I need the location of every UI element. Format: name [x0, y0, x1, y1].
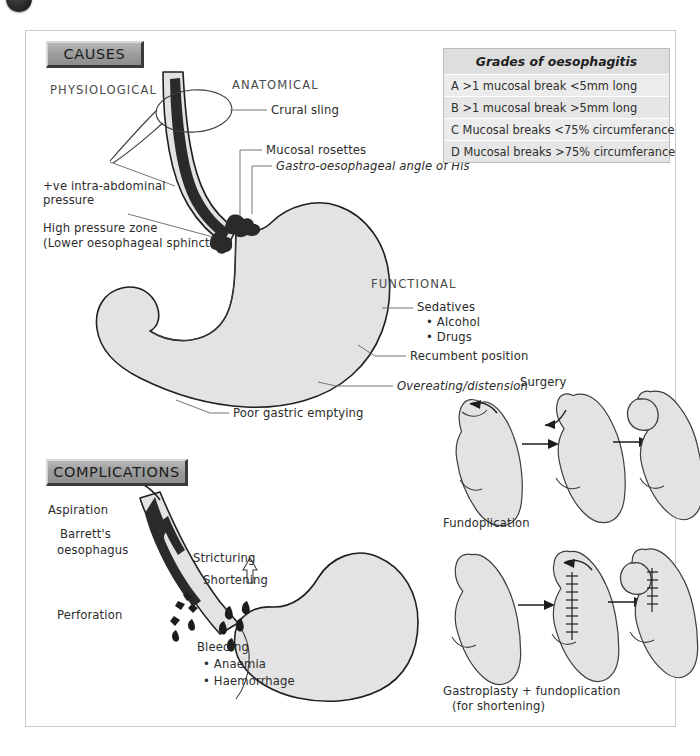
label-anatomical: ANATOMICAL — [232, 78, 319, 93]
label-crural-sling: Crural sling — [271, 103, 339, 118]
gastro-wrap-3 — [620, 563, 651, 595]
crural-sling-tail — [110, 110, 157, 161]
fundo-stomach-1 — [456, 399, 522, 525]
surgery-row-fundoplication — [456, 391, 700, 526]
gastro-stomach-2 — [553, 551, 618, 681]
label-high-pressure-zone-line2: (Lower oesophageal sphincter) — [43, 236, 227, 251]
label-sedatives: Sedatives — [417, 300, 475, 315]
label-angle-of-his: Gastro-oesophageal angle of His — [276, 159, 470, 174]
label-surgery-title: Surgery — [520, 375, 566, 390]
fundo-wrap-arrowhead-2 — [545, 420, 555, 429]
label-fundoplication: Fundoplication — [443, 516, 530, 531]
surgery-row-gastroplasty — [452, 549, 698, 684]
complications-section-header[interactable]: COMPLICATIONS — [46, 459, 188, 486]
fundo-wrap-3 — [627, 399, 658, 431]
label-anaemia: • Anaemia — [203, 657, 266, 672]
mucosal-rosette-clump — [225, 215, 260, 238]
grades-of-oesophagitis-table: Grades of oesophagitis A >1 mucosal brea… — [443, 48, 670, 163]
gastro-stomach-1 — [455, 554, 520, 684]
grades-row-a: A >1 mucosal break <5mm long — [444, 75, 669, 97]
surgery-arrowhead-1 — [548, 439, 559, 449]
complications-illustration — [120, 473, 418, 701]
label-drugs: • Drugs — [426, 330, 472, 345]
label-intra-abdominal-pressure-line2: pressure — [43, 193, 94, 208]
causes-section-header[interactable]: CAUSES — [46, 41, 144, 68]
label-intra-abdominal-pressure-line1: +ve intra-abdominal — [43, 179, 166, 194]
label-recumbent-position: Recumbent position — [410, 349, 528, 364]
diagram-root: CAUSES COMPLICATIONS PHYSIOLOGICAL ANATO… — [0, 0, 700, 756]
label-perforation: Perforation — [57, 608, 122, 623]
label-gastroplasty-line1: Gastroplasty + fundoplication — [443, 684, 621, 699]
label-overeating-distension: Overeating/distension — [397, 379, 528, 394]
leader-mucosal-rosettes — [240, 150, 262, 216]
grades-row-b: B >1 mucosal break >5mm long — [444, 97, 669, 119]
label-alcohol: • Alcohol — [426, 315, 480, 330]
label-aspiration: Aspiration — [48, 503, 108, 518]
label-oesophagus: oesophagus — [57, 543, 128, 558]
label-bleeding: Bleeding — [197, 640, 249, 655]
label-mucosal-rosettes: Mucosal rosettes — [266, 143, 366, 158]
label-high-pressure-zone-line1: High pressure zone — [43, 221, 157, 236]
label-shortening: Shortening — [203, 573, 268, 588]
label-haemorrhage: • Haemorrhage — [203, 674, 295, 689]
grades-row-d: D Mucosal breaks >75% circumferance — [444, 141, 669, 162]
label-barretts: Barrett's — [60, 527, 111, 542]
grades-table-title: Grades of oesophagitis — [444, 49, 669, 75]
label-stricturing: Stricturing — [193, 551, 256, 566]
fundo-stomach-2 — [557, 394, 626, 523]
label-gastroplasty-line2: (for shortening) — [452, 699, 545, 714]
crural-sling-tail-2 — [113, 123, 163, 163]
anatomical-leader-lines — [230, 110, 272, 216]
label-physiological: PHYSIOLOGICAL — [50, 83, 157, 98]
leader-angle-of-his — [252, 166, 272, 214]
label-poor-gastric-emptying: Poor gastric emptying — [233, 406, 364, 421]
grades-row-c: C Mucosal breaks <75% circumferance — [444, 119, 669, 141]
label-functional: FUNCTIONAL — [371, 277, 457, 292]
